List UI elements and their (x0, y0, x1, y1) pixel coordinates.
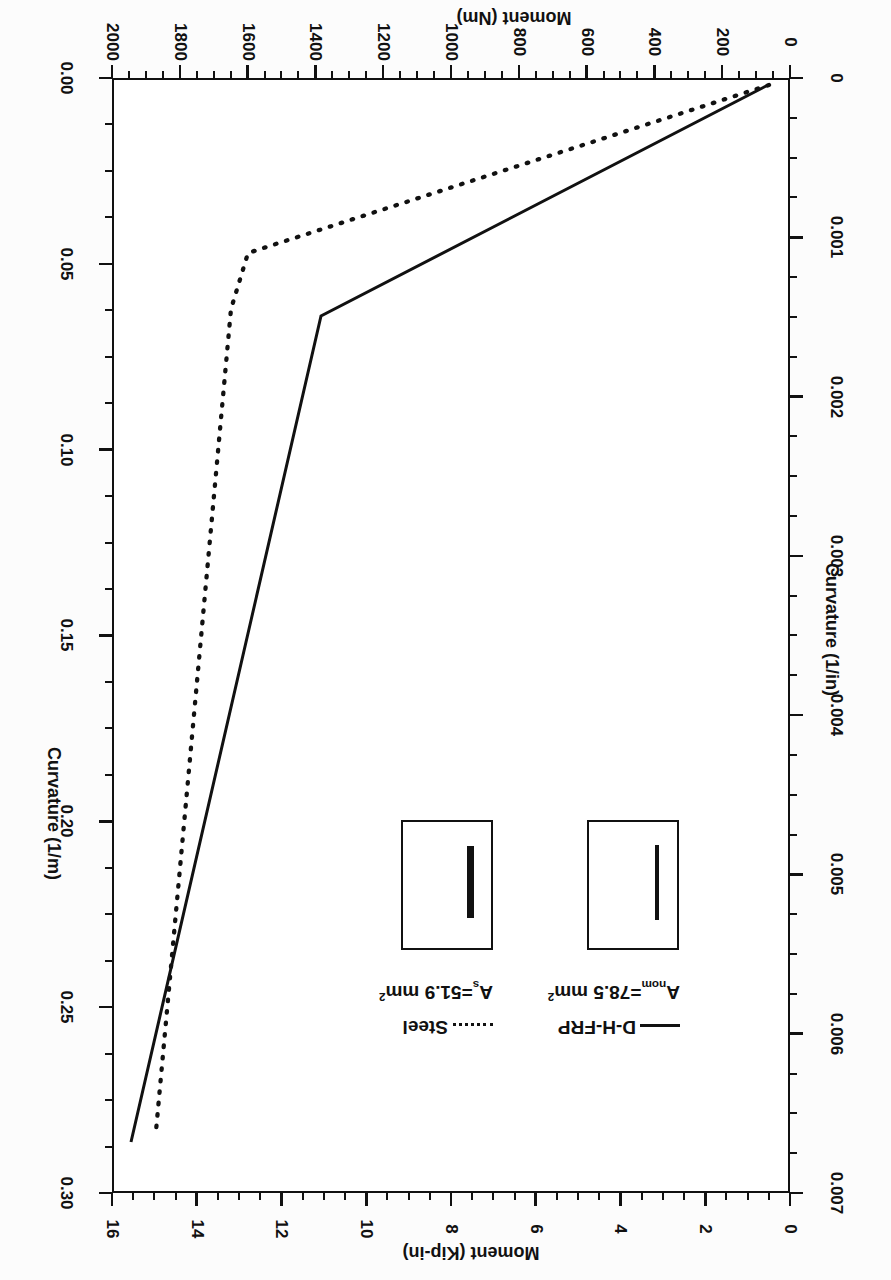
tick-mark (230, 71, 232, 78)
tick-mark (747, 1193, 749, 1200)
tick-mark (790, 515, 797, 517)
tick-mark (382, 65, 385, 78)
tick-mark (790, 157, 797, 159)
tick-mark (569, 71, 571, 78)
tick-label-bottom-8: 1600 (238, 23, 258, 61)
axis-title-bottom: Moment (Nm) (457, 7, 572, 28)
tick-mark (768, 1193, 770, 1200)
tick-label-left-6: 0.006 (826, 1012, 846, 1055)
tick-label-right-1: 0.05 (56, 247, 76, 280)
tick-label-bottom-9: 1800 (170, 23, 190, 61)
tick-label-left-0: 0 (826, 73, 846, 82)
tick-label-top-5: 10 (356, 1220, 376, 1239)
tick-mark (105, 867, 112, 869)
tick-mark (789, 1193, 792, 1206)
tick-mark (105, 356, 112, 358)
tick-mark (467, 71, 469, 78)
tick-mark (132, 1193, 134, 1200)
tick-mark (399, 71, 401, 78)
tick-mark (619, 1193, 622, 1206)
tick-mark (99, 1192, 112, 1195)
tick-label-top-4: 8 (441, 1224, 461, 1233)
tick-label-right-6: 0.30 (56, 1176, 76, 1209)
tick-mark (344, 1193, 346, 1200)
tick-label-right-0: 0.00 (56, 61, 76, 94)
tick-mark (790, 714, 803, 717)
tick-label-left-2: 0.002 (826, 375, 846, 418)
tick-mark (790, 475, 797, 477)
legend-area-subscript-dhfrp: nom (641, 979, 666, 992)
legend-area-subscript-steel: s (473, 979, 480, 992)
tick-mark (790, 1073, 797, 1075)
tick-mark (755, 71, 757, 78)
tick-mark (501, 71, 503, 78)
tick-mark (790, 356, 797, 358)
tick-mark (725, 1193, 727, 1200)
tick-label-right-2: 0.10 (56, 433, 76, 466)
reinforcement-bar-dhfrp (656, 845, 660, 920)
tick-mark (534, 1193, 537, 1206)
tick-mark (790, 316, 797, 318)
tick-mark (772, 71, 774, 78)
reinforcement-bar-steel (467, 846, 474, 918)
axis-title-left: Curvature (1/in) (821, 510, 842, 750)
tick-mark (653, 65, 656, 78)
tick-mark (153, 1193, 155, 1200)
legend-sublabel-steel: As=51.9 mm2 (379, 979, 493, 1004)
tick-mark (484, 71, 486, 78)
tick-mark (704, 1193, 707, 1206)
tick-mark (620, 71, 622, 78)
tick-label-right-5: 0.25 (56, 991, 76, 1024)
legend-area-value-dhfrp: =78.5 mm (554, 982, 641, 1003)
tick-mark (790, 674, 797, 676)
tick-mark (99, 1006, 112, 1009)
legend-label-steel: Steel (403, 1016, 448, 1038)
tick-label-top-2: 4 (611, 1224, 631, 1233)
tick-mark (246, 65, 249, 78)
legend-area-exponent-steel: 2 (379, 991, 386, 1004)
tick-mark (213, 71, 215, 78)
tick-mark (238, 1193, 240, 1200)
tick-mark (636, 71, 638, 78)
tick-mark (577, 1193, 579, 1200)
tick-mark (790, 953, 797, 955)
tick-mark (105, 309, 112, 311)
tick-label-bottom-3: 600 (577, 28, 597, 56)
tick-mark (99, 820, 112, 823)
tick-mark (790, 1032, 803, 1035)
tick-mark (105, 170, 112, 172)
tick-mark (790, 635, 797, 637)
tick-mark (790, 595, 797, 597)
tick-mark (105, 495, 112, 497)
figure-page: 0200400600800100012001400160018002000 02… (0, 0, 891, 1280)
tick-label-bottom-7: 1400 (305, 23, 325, 61)
tick-mark (450, 1193, 453, 1206)
tick-mark (105, 913, 112, 915)
tick-mark (105, 1099, 112, 1101)
tick-mark (738, 71, 740, 78)
plot-frame (112, 78, 790, 1193)
tick-mark (704, 71, 706, 78)
tick-mark (195, 1193, 198, 1206)
tick-mark (535, 71, 537, 78)
tick-mark (280, 1193, 283, 1206)
tick-mark (790, 555, 803, 558)
tick-mark (790, 834, 797, 836)
tick-mark (790, 794, 797, 796)
tick-mark (514, 1193, 516, 1200)
tick-mark (790, 77, 803, 80)
tick-mark (105, 1053, 112, 1055)
tick-mark (297, 71, 299, 78)
tick-mark (408, 1193, 410, 1200)
tick-mark (145, 71, 147, 78)
tick-mark (99, 448, 112, 451)
tick-mark (471, 1193, 473, 1200)
tick-mark (105, 402, 112, 404)
tick-mark (598, 1193, 600, 1200)
tick-mark (790, 1152, 797, 1154)
tick-label-bottom-6: 1200 (373, 23, 393, 61)
tick-mark (518, 65, 521, 78)
tick-label-bottom-5: 1000 (441, 23, 461, 61)
section-sketch-dhfrp (587, 820, 679, 950)
tick-mark (670, 71, 672, 78)
